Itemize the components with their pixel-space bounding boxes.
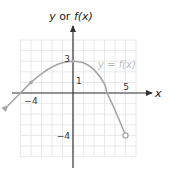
tick-label-y-neg4: −4 bbox=[57, 131, 71, 141]
tick-label-y-1: 1 bbox=[76, 76, 82, 86]
point-marker bbox=[71, 59, 75, 63]
x-axis-title: x bbox=[154, 87, 162, 100]
tick-label-y-3: 3 bbox=[64, 54, 70, 64]
tick-label-x-neg4: −4 bbox=[24, 96, 38, 106]
y-axis-title: y or f(x) bbox=[48, 10, 93, 23]
point-marker bbox=[29, 81, 33, 85]
tick-label-x-5: 5 bbox=[123, 82, 129, 92]
grid-lines bbox=[21, 40, 137, 157]
function-label: y = f(x) bbox=[97, 59, 136, 70]
open-endpoint-marker bbox=[123, 133, 128, 138]
function-graph: y or f(x) x −4 5 3 1 −4 y = f(x) bbox=[0, 0, 169, 175]
